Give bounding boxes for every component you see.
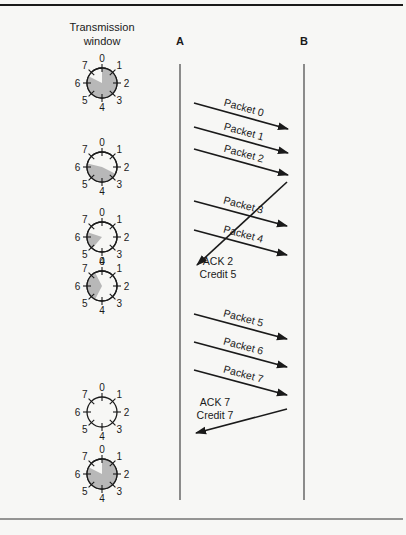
window-dial: 01234567 [75,256,130,316]
ack-message: ACK 7Credit 7 [196,396,287,433]
dial-sequence-label: 7 [82,60,88,71]
ack-label: ACK 7 [200,396,231,408]
dial-sequence-label: 1 [117,60,123,71]
window-column-title: Transmission [70,21,135,33]
dial-sequence-label: 3 [117,249,123,260]
dial-sequence-label: 4 [99,305,105,316]
dial-sequence-label: 7 [82,144,88,155]
message-arrows: Packet 0Packet 1Packet 2Packet 3Packet 4… [194,96,288,433]
dial-sequence-label: 3 [117,298,123,309]
dial-sequence-label: 2 [124,162,130,173]
message-arrow [197,182,287,265]
dial-sequence-label: 4 [99,102,105,113]
dial-sequence-label: 0 [99,444,105,455]
window-dial: 01234567 [75,137,130,197]
dial-sequence-label: 5 [82,95,88,106]
dial-sequence-label: 7 [82,263,88,274]
dial-sequence-label: 0 [99,207,105,218]
dial-sequence-label: 4 [99,493,105,504]
dial-sequence-label: 4 [99,431,105,442]
dial-sequence-label: 3 [117,486,123,497]
dial-sequence-label: 2 [124,232,130,243]
dial-sequence-label: 3 [117,95,123,106]
dial-sequence-label: 7 [82,214,88,225]
dial-sequence-label: 0 [99,137,105,148]
window-dial: 01234567 [75,444,130,504]
dial-sequence-label: 2 [124,281,130,292]
dial-sequence-label: 6 [75,78,81,89]
dial-sequence-label: 5 [82,424,88,435]
dial-sequence-label: 7 [82,389,88,400]
packet-label: Packet 4 [222,223,265,245]
dial-sequence-label: 2 [124,78,130,89]
dial-sequence-label: 1 [117,263,123,274]
packet-label: Packet 6 [222,335,265,357]
window-dial: 01234567 [75,53,130,113]
dial-sequence-label: 6 [75,281,81,292]
packet-message: Packet 2 [194,142,288,175]
packet-label: Packet 7 [222,363,265,385]
packet-label: Packet 1 [223,120,266,143]
dial-sequence-label: 6 [75,232,81,243]
packet-label: Packet 5 [222,307,265,329]
dial-sequence-label: 5 [82,179,88,190]
dial-sequence-label: 6 [75,162,81,173]
dial-sequence-label: 2 [124,469,130,480]
ack-label: ACK 2 [203,255,234,267]
station-b-label: B [300,35,308,47]
packet-message: Packet 4 [194,223,287,255]
window-column-title-2: window [83,35,121,47]
dial-sequence-label: 5 [82,298,88,309]
packet-message: Packet 6 [194,335,287,367]
dial-sequence-label: 1 [117,214,123,225]
packet-message: Packet 5 [194,307,287,339]
dial-sequence-label: 3 [117,424,123,435]
dial-sequence-label: 7 [82,451,88,462]
dial-sequence-label: 1 [117,144,123,155]
window-dial: 01234567 [75,382,130,442]
dial-sequence-label: 1 [117,451,123,462]
credit-label: Credit 7 [197,409,234,421]
dial-sequence-label: 2 [124,407,130,418]
packet-label: Packet 0 [223,96,266,119]
dial-sequence-label: 0 [99,256,105,267]
dial-sequence-label: 5 [82,486,88,497]
dial-sequence-label: 6 [75,469,81,480]
dial-sequence-label: 4 [99,186,105,197]
transmission-window-dials: 0123456701234567012345670123456701234567… [75,53,130,504]
dial-sequence-label: 1 [117,389,123,400]
dial-sequence-label: 0 [99,53,105,64]
station-a-label: A [176,35,184,47]
credit-label: Credit 5 [200,268,237,280]
dial-sequence-label: 5 [82,249,88,260]
dial-sequence-label: 3 [117,179,123,190]
packet-message: Packet 7 [194,363,287,395]
packet-message: Packet 3 [194,194,287,226]
sliding-window-diagram: Transmission window A B 0123456701234567… [0,0,406,535]
packet-label: Packet 3 [222,194,265,216]
dial-sequence-label: 0 [99,382,105,393]
dial-sequence-label: 6 [75,407,81,418]
